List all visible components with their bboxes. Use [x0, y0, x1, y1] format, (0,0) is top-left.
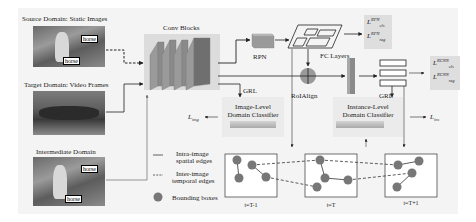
- roialign-label: RoIAlign: [291, 92, 317, 100]
- frame-label-t-plus-1: t=T+1: [385, 199, 437, 207]
- legend-inter-line2: temporal edges: [172, 177, 215, 185]
- fc-stack: [380, 60, 406, 86]
- fc-layers-label: FC Layers: [320, 52, 349, 60]
- legend-node: [154, 193, 163, 202]
- frame-label-t: t=T: [305, 201, 357, 209]
- loss-img: Limg: [188, 113, 199, 122]
- loss-rpn-cls: LRPNcls: [367, 17, 389, 28]
- loss-ins: Lins: [430, 113, 439, 122]
- conv-blocks: [150, 38, 210, 90]
- grl-instance-label: GRL: [379, 92, 393, 100]
- legend-boxes: Bounding boxes: [172, 194, 218, 202]
- rcnn-loss-box: LRCNNcls LRCNNreg: [430, 56, 460, 90]
- loss-rcnn-reg: LRCNNreg: [433, 72, 457, 83]
- legend-intra-line2: spatial edges: [176, 157, 212, 165]
- rpn-label: RPN: [253, 53, 267, 61]
- rpn-loss-box: LRPNcls LRPNreg: [364, 15, 392, 49]
- loss-rcnn-cls: LRCNNcls: [433, 58, 457, 69]
- rpn-block: [252, 34, 274, 48]
- diagram-graphics: [0, 0, 476, 222]
- loss-rpn-reg: LRPNreg: [367, 31, 389, 42]
- frame-label-t-minus-1: t=T-1: [225, 201, 277, 209]
- grl-image-label: GRL: [243, 87, 257, 95]
- proposals-shape: [288, 25, 342, 48]
